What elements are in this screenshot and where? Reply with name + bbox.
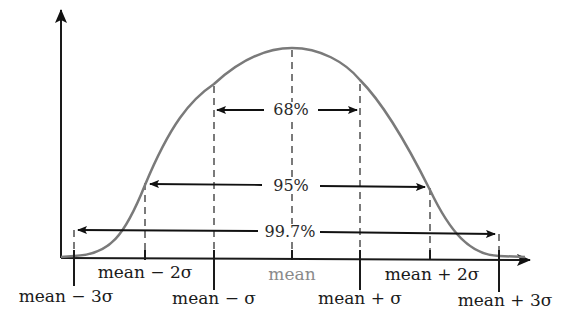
interval-99-7-label: 99.7% xyxy=(262,224,319,240)
label-mean-plus-2sigma: mean + 2σ xyxy=(385,266,480,283)
label-mean: mean xyxy=(268,266,315,283)
interval-68-label: 68% xyxy=(270,102,312,118)
label-mean-minus-3sigma: mean − 3σ xyxy=(19,288,114,305)
x-axis xyxy=(61,258,530,260)
normal-distribution-diagram: 68% 95% 99.7% mean − 2σ mean − 3σ mean −… xyxy=(0,0,569,327)
label-mean-plus-3sigma: mean + 3σ xyxy=(458,292,553,309)
label-mean-minus-sigma: mean − σ xyxy=(172,290,256,307)
interval-95-label: 95% xyxy=(270,178,312,194)
label-mean-minus-2sigma: mean − 2σ xyxy=(98,264,193,281)
label-mean-plus-sigma: mean + σ xyxy=(318,290,402,307)
